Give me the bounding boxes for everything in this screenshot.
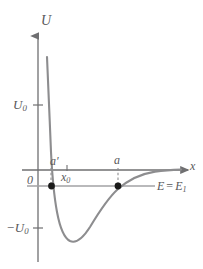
x-label-x0: x0 (61, 171, 70, 183)
potential-energy-curve (47, 57, 181, 242)
y-tick-label-u0-text: U (13, 97, 22, 112)
y-tick-label-neg-u0-text: −U (6, 220, 24, 235)
potential-energy-diagram: U U0 −U0 0 a′ x0 a x E=E1 (0, 0, 203, 269)
energy-level-label-equals: = (164, 179, 175, 193)
x-label-a: a (114, 154, 120, 166)
energy-level-label: E=E1 (157, 180, 187, 192)
x-label-x0-sub: 0 (66, 176, 70, 185)
y-axis-label: U (41, 14, 51, 28)
y-tick-label-neg-u0-sub: 0 (24, 226, 28, 236)
turning-point-marker-a-prime (48, 183, 55, 190)
x-axis-label: x (190, 160, 195, 172)
plot-canvas (0, 0, 203, 269)
energy-level-label-E1-sub: 1 (182, 185, 186, 194)
origin-label: 0 (27, 174, 33, 186)
y-tick-label-neg-u0: −U0 (6, 221, 29, 234)
y-tick-label-u0: U0 (13, 98, 27, 111)
turning-point-marker-a (115, 183, 122, 190)
x-label-a-prime: a′ (50, 155, 59, 167)
y-tick-label-u0-sub: 0 (22, 103, 26, 113)
